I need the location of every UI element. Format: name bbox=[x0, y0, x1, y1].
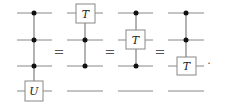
gate-label: U bbox=[29, 85, 39, 98]
circuit-canvas: U = T = T = T . bbox=[0, 0, 247, 109]
circuit-diagram: U = T = T = T . bbox=[0, 0, 247, 109]
circuit-3: T bbox=[118, 11, 153, 92]
circuit-2: T bbox=[67, 4, 103, 91]
control-dot bbox=[32, 64, 37, 69]
control-dot bbox=[32, 11, 37, 16]
control-dot bbox=[83, 38, 88, 43]
circuit-4: T bbox=[168, 11, 204, 92]
control-dot bbox=[134, 64, 139, 69]
control-dot bbox=[83, 64, 88, 69]
control-dot bbox=[184, 11, 189, 16]
control-dot bbox=[32, 38, 37, 43]
circuit-1: U bbox=[17, 11, 52, 102]
equals-sign: = bbox=[54, 44, 65, 59]
period-terminator: . bbox=[207, 54, 211, 67]
equals-sign: = bbox=[105, 44, 116, 59]
control-dot bbox=[134, 11, 139, 16]
control-dot bbox=[184, 38, 189, 43]
equals-sign: = bbox=[155, 44, 166, 59]
